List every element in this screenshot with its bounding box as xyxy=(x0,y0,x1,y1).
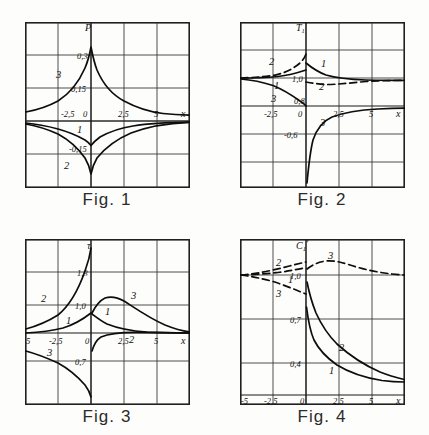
plot-area-fig4: C1' -5 -2,5 0 2,5 5 x 1,0 0,7 0,4 2 3 1 … xyxy=(240,239,405,405)
caption-fig3: Fig.3 xyxy=(0,407,214,427)
plot-svg-fig1: P -2,5 0 2,5 5 x 0,3 0,15 -0,15 3 1 2 xyxy=(25,22,190,188)
figure-panel-4: C1' -5 -2,5 0 2,5 5 x 1,0 0,7 0,4 2 3 1 … xyxy=(215,217,429,434)
curve-label-1-left: 1 xyxy=(66,315,71,326)
plot-svg-fig2: T1' -2,5 0 2,5 5 x 1,0 0,8 -0,6 2 1 3 1 … xyxy=(240,22,405,188)
x-tick-5: 5 xyxy=(154,109,158,119)
y-tick-0.15: 0,15 xyxy=(71,84,86,94)
y-axis-label: P xyxy=(84,22,91,33)
x-tick-0: 0 xyxy=(83,109,88,119)
curve-label-1-left: 1 xyxy=(288,274,293,285)
curve-label-3-left: 3 xyxy=(275,288,281,299)
plot-area-fig2: T1' -2,5 0 2,5 5 x 1,0 0,8 -0,6 2 1 3 1 … xyxy=(240,22,405,188)
x-tick-5: 5 xyxy=(369,396,373,406)
figure-panel-1: P -2,5 0 2,5 5 x 0,3 0,15 -0,15 3 1 2 Fi… xyxy=(0,0,214,217)
x-tick--2.5: -2,5 xyxy=(49,336,62,346)
y-tick-1.3: 1,3 xyxy=(77,268,88,278)
curve-label-1-right: 1 xyxy=(329,365,334,376)
x-tick-0: 0 xyxy=(85,336,90,346)
y-tick--0.15: -0,15 xyxy=(69,144,87,154)
x-tick-2.5: 2,5 xyxy=(333,109,344,119)
x-tick--5: -5 xyxy=(241,396,248,406)
curve-label-3-right: 3 xyxy=(319,117,325,128)
curve-2-right xyxy=(307,282,404,380)
x-tick-5: 5 xyxy=(369,109,373,119)
curve-label-3-right: 3 xyxy=(327,250,333,261)
y-tick-0.3: 0,3 xyxy=(77,51,88,61)
x-tick-5: 5 xyxy=(154,336,158,346)
y-tick-1.0: 1,0 xyxy=(292,74,303,84)
curve-label-2-left: 2 xyxy=(41,293,47,304)
plot-frame xyxy=(26,240,189,404)
figure-panel-2: T1' -2,5 0 2,5 5 x 1,0 0,8 -0,6 2 1 3 1 … xyxy=(215,0,429,217)
curve-label-2-right: 2 xyxy=(319,81,325,92)
x-tick-2.5: 2,5 xyxy=(333,396,344,406)
grid-lines xyxy=(241,23,404,187)
plot-area-fig1: P -2,5 0 2,5 5 x 0,3 0,15 -0,15 3 1 2 xyxy=(25,22,190,188)
caption-number: 3 xyxy=(121,407,131,426)
y-tick-0.7: 0,7 xyxy=(75,357,86,367)
curve-3 xyxy=(26,47,189,115)
x-axis-label: x xyxy=(180,108,186,119)
caption-number: 4 xyxy=(336,407,346,426)
plot-svg-fig3: τ 5 -2,5 0 2,5 5 x 1,3 1,0 0,7 2 1 3 3 1… xyxy=(25,239,190,405)
plot-area-fig3: τ 5 -2,5 0 2,5 5 x 1,3 1,0 0,7 2 1 3 3 1… xyxy=(25,239,190,405)
x-tick--2.5: -2,5 xyxy=(61,109,74,119)
caption-prefix: Fig. xyxy=(83,190,115,209)
curve-1 xyxy=(26,122,189,145)
curve-2 xyxy=(26,122,189,174)
curve-label-3-right: 3 xyxy=(130,290,136,301)
caption-fig1: Fig.1 xyxy=(0,190,214,210)
figure-panel-3: τ 5 -2,5 0 2,5 5 x 1,3 1,0 0,7 2 1 3 3 1… xyxy=(0,217,214,434)
caption-number: 1 xyxy=(121,190,131,209)
caption-fig4: Fig.4 xyxy=(215,407,429,427)
y-tick--0.6: -0,6 xyxy=(284,130,298,140)
curve-2-right xyxy=(92,332,189,351)
y-tick-0.8: 0,8 xyxy=(294,96,305,106)
curve-3-right xyxy=(307,261,404,275)
curve-label-2-left: 2 xyxy=(269,56,275,67)
y-tick-0.4: 0,4 xyxy=(290,359,301,369)
y-axis-label: C1' xyxy=(296,238,309,252)
curve-label-3-left: 3 xyxy=(270,93,276,104)
curve-label-3: 3 xyxy=(55,69,61,80)
curve-label-1-left: 1 xyxy=(274,80,279,91)
x-tick-2.5: 2,5 xyxy=(118,109,129,119)
caption-number: 2 xyxy=(336,190,346,209)
plot-svg-fig4: C1' -5 -2,5 0 2,5 5 x 1,0 0,7 0,4 2 3 1 … xyxy=(240,239,405,405)
x-tick--5: 5 xyxy=(26,336,30,346)
caption-prefix: Fig. xyxy=(298,407,330,426)
curve-label-2-left: 2 xyxy=(276,257,282,268)
y-tick-1.0: 1,0 xyxy=(75,301,86,311)
x-tick-2.5: 2,5 xyxy=(118,336,129,346)
curve-label-1-right: 1 xyxy=(105,306,110,317)
x-tick--2.5: -2,5 xyxy=(264,109,277,119)
grid-lines xyxy=(26,240,189,404)
curve-label-2-right: 2 xyxy=(129,334,135,345)
curve-label-1-right: 1 xyxy=(321,58,326,69)
y-axis-label: τ xyxy=(87,240,91,251)
x-axis-label: x xyxy=(395,108,401,119)
x-axis-label: x xyxy=(180,335,186,346)
y-tick-0.7: 0,7 xyxy=(290,315,301,325)
curve-1-right xyxy=(307,307,405,382)
curve-label-1: 1 xyxy=(77,124,82,135)
curve-label-2: 2 xyxy=(64,160,70,171)
curve-label-3-left: 3 xyxy=(46,347,52,358)
x-axis-label: x xyxy=(395,395,401,406)
caption-fig2: Fig.2 xyxy=(215,190,429,210)
plot-frame xyxy=(241,23,404,187)
caption-prefix: Fig. xyxy=(83,407,115,426)
caption-prefix: Fig. xyxy=(298,190,330,209)
x-tick-0: 0 xyxy=(298,109,303,119)
figure-sheet: P -2,5 0 2,5 5 x 0,3 0,15 -0,15 3 1 2 Fi… xyxy=(0,0,429,435)
curve-label-2-right: 2 xyxy=(339,342,345,353)
x-tick--2.5: -2,5 xyxy=(264,396,277,406)
